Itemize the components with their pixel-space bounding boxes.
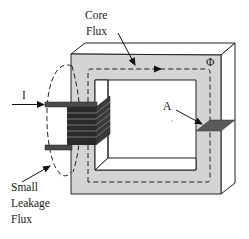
leakage-pointer-arrow	[22, 166, 50, 182]
coil-top-lead	[45, 102, 97, 107]
leakage-label-line1: Small	[11, 181, 38, 194]
window-inner-bottom-face	[95, 158, 196, 170]
core-top-face	[71, 43, 235, 55]
coil-bottom-lead	[45, 145, 72, 150]
magnetic-circuit-diagram: Core Flux I Φ A Small Leakage Flux	[0, 0, 249, 239]
leakage-label-line3: Flux	[11, 213, 32, 226]
core-flux-label-line2: Flux	[86, 25, 107, 38]
area-label: A	[163, 100, 171, 113]
current-label: I	[22, 89, 26, 102]
flux-symbol-label: Φ	[206, 56, 214, 69]
leakage-label-line2: Leakage	[11, 197, 50, 210]
window-dot	[171, 120, 172, 121]
core-right-face	[221, 43, 235, 194]
core-flux-label-line1: Core	[85, 9, 107, 22]
